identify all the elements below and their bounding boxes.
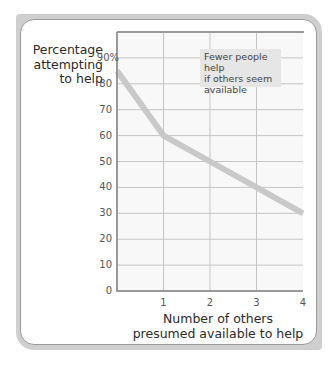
y-tick-label: 50 [82, 156, 112, 168]
y-tick-label: 30 [82, 207, 112, 219]
x-tick-label: 2 [200, 297, 220, 309]
annotation-line: available [204, 84, 277, 95]
x-tick-label: 4 [293, 297, 313, 309]
x-tick-label: 3 [247, 297, 267, 309]
x-axis-label: Number of others presumed available to h… [120, 311, 316, 341]
y-tick-label: 90% [89, 52, 119, 64]
y-tick-label: 60 [82, 130, 112, 142]
y-tick-label: 40 [82, 181, 112, 193]
annotation-line: if others seem [204, 73, 277, 84]
y-tick-label: 0 [82, 285, 112, 297]
y-tick-label: 70 [82, 104, 112, 116]
x-axis-label-line: Number of others [120, 311, 316, 326]
annotation-callout: Fewer people help if others seem availab… [200, 49, 281, 87]
y-tick-label: 10 [82, 259, 112, 271]
annotation-line: Fewer people help [204, 51, 277, 73]
y-tick-label: 20 [82, 233, 112, 245]
x-tick-label: 1 [154, 297, 174, 309]
x-axis-label-line: presumed available to help [120, 326, 316, 341]
y-tick-label: 80 [82, 78, 112, 90]
